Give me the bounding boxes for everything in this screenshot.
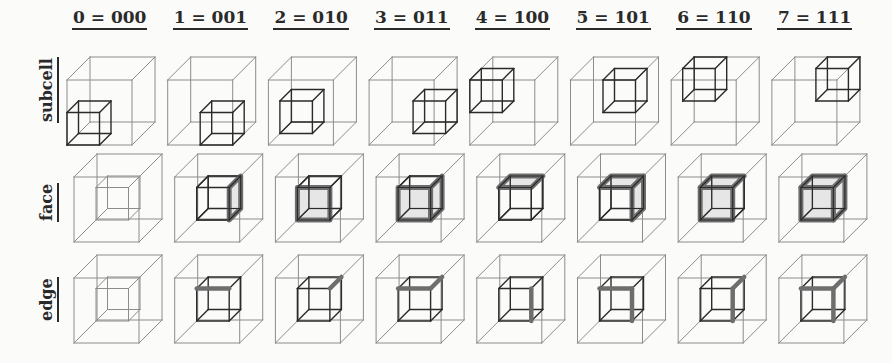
column-header-001: 1 = 001 — [173, 7, 248, 30]
edge-cube-010 — [275, 255, 363, 343]
face-cube-110 — [678, 154, 766, 242]
edge-cube-011 — [376, 255, 464, 343]
subcell-cube-010 — [268, 57, 356, 145]
row-label-face: face — [38, 183, 59, 222]
edge-cube-110 — [678, 255, 766, 343]
column-header-000: 0 = 000 — [72, 7, 147, 30]
column-header-110: 6 = 110 — [676, 7, 751, 30]
face-cube-011 — [376, 154, 464, 242]
top-right-edge-highlight — [733, 277, 745, 289]
subcell-cube-000 — [67, 57, 155, 145]
column-header-111: 7 = 111 — [777, 7, 852, 30]
top-right-edge-highlight — [330, 277, 342, 289]
subcell-cube-100 — [470, 57, 558, 145]
right-face-highlight — [632, 176, 644, 220]
face-cube-101 — [578, 154, 666, 242]
top-face-highlight — [499, 176, 543, 188]
subcell-cube-111 — [772, 57, 860, 145]
row-label-edge: edge — [38, 277, 59, 322]
column-header-101: 5 = 101 — [576, 7, 651, 30]
right-face-highlight — [229, 176, 241, 220]
face-cube-001 — [175, 154, 263, 242]
face-cube-010 — [275, 154, 363, 242]
row-label-subcell: subcell — [38, 57, 59, 123]
subcell-cube-110 — [671, 57, 759, 145]
face-cube-000 — [74, 154, 162, 242]
top-face-highlight — [700, 176, 744, 188]
edge-cube-111 — [779, 255, 867, 343]
top-right-edge-highlight — [833, 277, 845, 289]
cube-diagram — [0, 0, 892, 363]
face-cube-100 — [477, 154, 565, 242]
subcell-cube-001 — [168, 57, 256, 145]
edge-cube-101 — [578, 255, 666, 343]
face-cube-111 — [779, 154, 867, 242]
top-right-edge-highlight — [431, 277, 443, 289]
column-header-100: 4 = 100 — [475, 7, 550, 30]
column-header-011: 3 = 011 — [374, 7, 449, 30]
edge-cube-001 — [175, 255, 263, 343]
edge-cube-100 — [477, 255, 565, 343]
right-face-highlight — [833, 176, 845, 220]
column-header-010: 2 = 010 — [273, 7, 348, 30]
subcell-cube-011 — [369, 57, 457, 145]
right-face-highlight — [431, 176, 443, 220]
subcell-cube-101 — [571, 57, 659, 145]
edge-cube-000 — [74, 255, 162, 343]
